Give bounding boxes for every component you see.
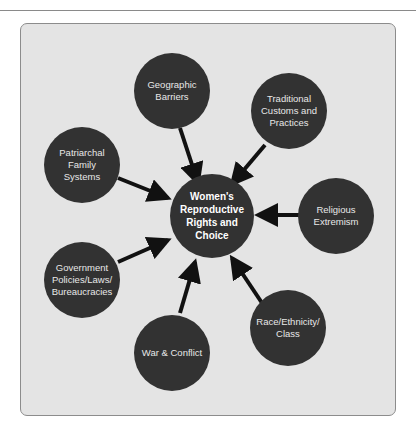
node-war-conflict: War & Conflict (134, 315, 210, 391)
arrow-patriarchal (118, 178, 168, 198)
node-label: Patriarchal Family Systems (50, 147, 114, 183)
arrow-race (232, 258, 262, 303)
node-religious-extremism: Religious Extremism (298, 178, 374, 254)
arrow-war (180, 262, 195, 313)
node-center-reproductive-rights: Women's Reproductive Rights and Choice (170, 174, 254, 258)
node-label: Religious Extremism (304, 204, 368, 228)
node-label: Geographic Barriers (140, 79, 204, 103)
node-government-policies: Government Policies/Laws/ Bureaucracies (44, 242, 120, 318)
center-label: Women's Reproductive Rights and Choice (176, 190, 248, 242)
arrow-traditional (232, 145, 265, 184)
node-label: Traditional Customs and Practices (257, 93, 321, 129)
node-race-ethnicity-class: Race/Ethnicity/ Class (250, 290, 326, 366)
node-label: Race/Ethnicity/ Class (256, 316, 320, 340)
node-geographic-barriers: Geographic Barriers (134, 53, 210, 129)
node-label: Government Policies/Laws/ Bureaucracies (50, 262, 114, 298)
node-patriarchal-family: Patriarchal Family Systems (44, 127, 120, 203)
arrow-government (118, 240, 168, 262)
node-traditional-customs: Traditional Customs and Practices (251, 73, 327, 149)
node-label: War & Conflict (142, 347, 202, 359)
arrow-geographic (180, 128, 198, 183)
